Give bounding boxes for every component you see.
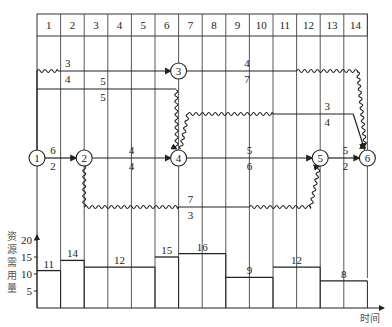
time-column-label: 10: [256, 19, 268, 31]
time-column-label: 12: [303, 19, 314, 31]
activity-resource: 5: [100, 75, 106, 87]
node-1: 1: [29, 150, 45, 166]
time-column-label: 8: [211, 19, 217, 31]
node-5: 5: [312, 150, 328, 166]
activity-resource: 4: [244, 57, 250, 69]
activity-resource: 4: [129, 144, 135, 156]
histogram-value: 11: [44, 258, 55, 270]
time-column-label: 1: [46, 19, 52, 31]
y-tick-label: 20: [21, 234, 33, 246]
svg-text:5: 5: [317, 152, 323, 164]
activity-duration: 2: [50, 160, 56, 172]
time-column-label: 14: [350, 19, 362, 31]
activity-resource: 5: [343, 144, 349, 156]
y-axis-label: 需: [7, 257, 17, 268]
activity-resource: 5: [247, 144, 253, 156]
time-column-label: 11: [280, 19, 291, 31]
time-column-label: 6: [164, 19, 170, 31]
y-axis-label: 源: [7, 243, 17, 255]
svg-text:6: 6: [365, 152, 371, 164]
node-4: 4: [171, 150, 187, 166]
activity-duration: 4: [129, 160, 135, 172]
time-column-label: 4: [117, 19, 123, 31]
histogram-value: 15: [161, 244, 173, 256]
histogram-value: 8: [341, 268, 347, 280]
x-axis-label: 时间: [360, 312, 380, 324]
histogram-value: 12: [291, 254, 302, 266]
activity-duration: 5: [100, 91, 106, 103]
node-2: 2: [76, 150, 92, 166]
activity-duration: 4: [65, 73, 71, 85]
y-axis-label: 量: [7, 283, 17, 294]
y-tick-label: 15: [21, 251, 33, 263]
svg-text:3: 3: [176, 65, 182, 77]
activity-duration: 7: [244, 73, 250, 85]
resource-histogram: [34, 235, 384, 308]
svg-text:4: 4: [176, 152, 182, 164]
time-column-label: 7: [188, 19, 194, 31]
node-6: 6: [359, 150, 375, 166]
svg-text:2: 2: [81, 152, 87, 164]
activity-duration: 2: [343, 160, 349, 172]
time-column-label: 9: [235, 19, 241, 31]
time-column-label: 2: [70, 19, 76, 31]
histogram-value: 14: [67, 247, 79, 259]
time-column-label: 5: [140, 19, 146, 31]
activity-resource: 3: [65, 57, 71, 69]
activity-duration: 3: [188, 209, 194, 221]
histogram-value: 16: [197, 241, 209, 253]
y-tick-label: 5: [27, 285, 33, 297]
y-axis-label: 用: [7, 270, 17, 281]
y-axis-label: 资: [7, 231, 17, 242]
time-column-label: 3: [93, 19, 99, 31]
node-3: 3: [171, 63, 187, 79]
y-tick-label: 10: [21, 268, 33, 280]
activity-resource: 7: [188, 193, 194, 205]
time-column-label: 13: [327, 19, 339, 31]
histogram-value: 9: [247, 264, 253, 276]
activity-duration: 4: [325, 116, 331, 128]
activity-resource: 3: [325, 100, 331, 112]
svg-text:1: 1: [34, 152, 40, 164]
activity-resource: 6: [50, 144, 56, 156]
activity-duration: 6: [247, 160, 253, 172]
network-diagram: 123456 123456789101112131462345544734756…: [0, 0, 392, 327]
histogram-value: 12: [114, 254, 125, 266]
